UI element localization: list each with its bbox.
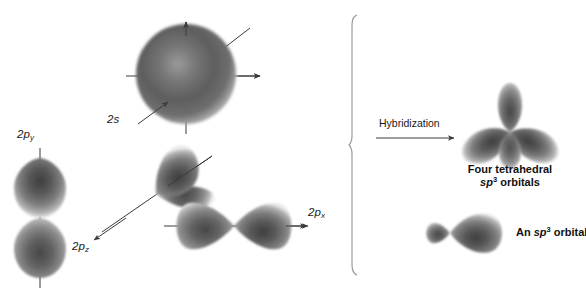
- orbital-hybridization-figure: 2s 2py 2pz: [0, 0, 586, 288]
- leader-line-2pz: [84, 216, 130, 246]
- orbital-2px: [162, 193, 312, 259]
- label-2px: 2px: [308, 206, 325, 220]
- py-lobe-upper: [14, 158, 66, 218]
- orbital-sp3-single: [424, 206, 512, 260]
- sp3-single-back-lobe: [426, 223, 450, 244]
- label-2s: 2s: [107, 113, 119, 126]
- label-four-tetrahedral-sp3: Four tetrahedral sp3 orbitals: [448, 163, 572, 188]
- sp3-lobe-top: [498, 83, 522, 132]
- orbital-2py: [2, 146, 78, 288]
- py-lobe-lower: [14, 218, 66, 278]
- orbital-2s: [118, 6, 268, 134]
- orbital-sp3-tetrahedral: [448, 80, 572, 166]
- s-orbital-sphere: [136, 24, 236, 124]
- px-lobe-left: [177, 203, 235, 249]
- sp3-single-front-lobe: [450, 213, 502, 253]
- label-an-sp3-orbital: An sp3 orbital: [516, 226, 586, 239]
- label-2py: 2py: [17, 128, 34, 142]
- px-lobe-right: [234, 203, 292, 249]
- hybridization-label: Hybridization: [379, 117, 440, 129]
- panel-divider: [348, 14, 362, 276]
